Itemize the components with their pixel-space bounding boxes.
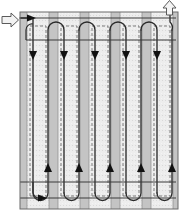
inlet-flow-arrow (2, 13, 19, 27)
serpentine-panel-diagram (0, 0, 183, 219)
figure-container: Serpentine Flow Panel Schematic inlet ou… (0, 0, 183, 219)
